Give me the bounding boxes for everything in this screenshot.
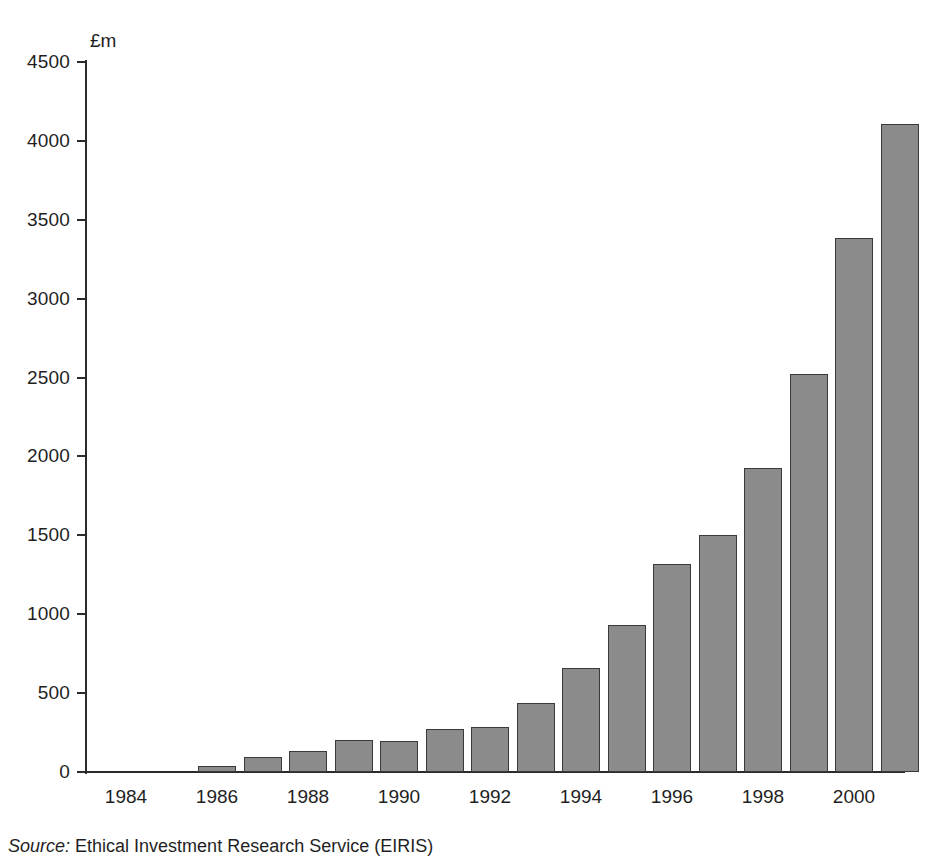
x-axis-tick-label: 1996 bbox=[651, 786, 693, 808]
x-axis-tick-label: 1992 bbox=[469, 786, 511, 808]
bar bbox=[699, 535, 737, 772]
x-axis-tick-label: 2000 bbox=[833, 786, 875, 808]
bar-chart-figure: £m 050010001500200025003000350040004500 … bbox=[0, 0, 926, 868]
y-axis-tick-label: 3000 bbox=[8, 289, 70, 308]
y-axis-tick-label: 4000 bbox=[8, 131, 70, 150]
y-axis-tick-label: 4500 bbox=[8, 52, 70, 71]
bar bbox=[426, 729, 464, 772]
y-axis-tick-label: 1000 bbox=[8, 604, 70, 623]
bar bbox=[608, 625, 646, 772]
bar bbox=[653, 564, 691, 772]
bar bbox=[881, 124, 919, 772]
bar bbox=[471, 727, 509, 772]
bars-container bbox=[85, 62, 905, 772]
y-axis-tick-label: 3500 bbox=[8, 210, 70, 229]
source-label: Source: bbox=[8, 836, 70, 856]
y-axis-tick-label: 1500 bbox=[8, 525, 70, 544]
x-axis-tick-label: 1994 bbox=[560, 786, 602, 808]
y-axis-unit-label: £m bbox=[90, 30, 116, 52]
y-axis-tick-label: 2000 bbox=[8, 446, 70, 465]
y-axis-tick-label: 500 bbox=[8, 683, 70, 702]
bar bbox=[289, 751, 327, 772]
x-axis-tick-label: 1988 bbox=[287, 786, 329, 808]
x-axis-tick-label: 1998 bbox=[742, 786, 784, 808]
bar bbox=[380, 741, 418, 772]
bar bbox=[562, 668, 600, 772]
y-axis-tick-label: 0 bbox=[8, 762, 70, 781]
bar bbox=[517, 703, 555, 772]
source-value: Ethical Investment Research Service (EIR… bbox=[75, 836, 433, 856]
bar bbox=[244, 757, 282, 772]
bar bbox=[198, 766, 236, 772]
bar bbox=[335, 740, 373, 772]
bar bbox=[835, 238, 873, 772]
x-axis-tick-label: 1986 bbox=[196, 786, 238, 808]
source-note: Source: Ethical Investment Research Serv… bbox=[8, 836, 433, 857]
x-axis-tick-label: 1990 bbox=[378, 786, 420, 808]
bar bbox=[744, 468, 782, 773]
bar bbox=[790, 374, 828, 772]
y-axis-tick-label: 2500 bbox=[8, 368, 70, 387]
x-axis-tick-label: 1984 bbox=[105, 786, 147, 808]
